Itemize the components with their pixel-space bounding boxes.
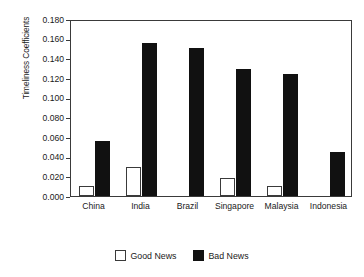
y-axis-tick-mark <box>66 158 70 159</box>
bar-malaysia-bad-news <box>283 74 298 196</box>
y-axis-tick-mark <box>66 118 70 119</box>
bar-china-good-news <box>79 186 94 196</box>
y-axis-tick-mark <box>66 99 70 100</box>
plot-area <box>70 20 352 197</box>
y-axis-tick-mark <box>66 40 70 41</box>
legend-swatch-good-news <box>115 250 126 261</box>
y-axis-tick-mark <box>66 197 70 198</box>
y-axis-tick-label: 0.160 <box>20 35 64 44</box>
bar-malaysia-good-news <box>267 186 282 196</box>
y-axis-tick-label: 0.080 <box>20 114 64 123</box>
bar-singapore-bad-news <box>236 69 251 196</box>
bar-brazil-bad-news <box>189 48 204 196</box>
bar-china-bad-news <box>95 141 110 196</box>
y-axis-tick-label: 0.060 <box>20 134 64 143</box>
y-axis-tick-label: 0.000 <box>20 193 64 202</box>
legend-label-good-news: Good News <box>130 251 176 261</box>
bar-india-good-news <box>126 167 141 197</box>
y-axis-tick-label: 0.040 <box>20 153 64 162</box>
y-axis-tick-mark <box>66 20 70 21</box>
legend-label-bad-news: Bad News <box>208 251 248 261</box>
y-axis-tick-label: 0.020 <box>20 173 64 182</box>
y-axis-tick-label: 0.120 <box>20 75 64 84</box>
y-axis-tick-label: 0.100 <box>20 94 64 103</box>
chart-legend: Good News Bad News <box>0 250 364 261</box>
legend-entry-bad-news: Bad News <box>193 250 248 261</box>
bar-india-bad-news <box>142 43 157 196</box>
y-axis-tick-mark <box>66 79 70 80</box>
y-axis-tick-mark <box>66 59 70 60</box>
y-axis-tick-label: 0.140 <box>20 55 64 64</box>
y-axis-tick-mark <box>66 177 70 178</box>
legend-entry-good-news: Good News <box>115 250 176 261</box>
bar-singapore-good-news <box>220 178 235 196</box>
y-axis-tick-mark <box>66 138 70 139</box>
bar-indonesia-bad-news <box>330 152 345 196</box>
y-axis-tick-label: 0.180 <box>20 16 64 25</box>
bar-chart: Timeliness Coefficients 0.0000.0200.0400… <box>0 0 364 277</box>
legend-swatch-bad-news <box>193 250 204 261</box>
x-axis-label: Indonesia <box>297 201 360 211</box>
